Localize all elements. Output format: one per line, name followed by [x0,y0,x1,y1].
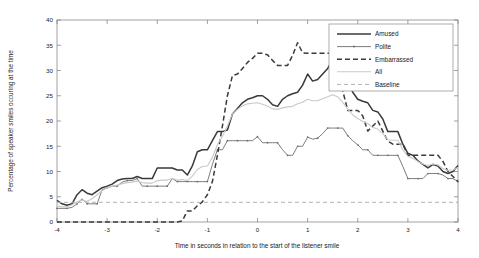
legend-label-polite: Polite [375,43,391,50]
series-marker-polite [407,178,409,180]
x-tick-label: 0 [256,226,260,233]
series-marker-polite [317,137,319,139]
y-tick-label: 5 [50,193,54,200]
series-marker-polite [56,208,58,210]
y-tick-label: 25 [46,92,53,99]
x-tick-label: -4 [54,226,60,233]
series-marker-polite [146,185,148,187]
x-tick-label: -1 [205,226,211,233]
series-marker-polite [96,203,98,205]
series-marker-polite [377,154,379,156]
series-marker-polite [307,136,309,138]
legend-marker-polite [353,46,355,48]
series-marker-polite [176,181,178,183]
series-marker-polite [247,140,249,142]
y-tick-label: 35 [46,42,53,49]
series-marker-polite [207,181,209,183]
series-marker-polite [297,145,299,147]
series-marker-polite [136,178,138,180]
chart-legend: AmusedPoliteEmbarrassedAllBaseline [329,24,453,91]
series-marker-polite [237,140,239,142]
series-marker-polite [66,208,68,210]
x-tick-label: -3 [104,226,110,233]
series-marker-polite [267,142,269,144]
y-axis-label: Percentage of speaker smiles occuring at… [7,50,15,192]
legend-label-baseline: Baseline [375,81,400,88]
legend-label-embarrassed: Embarrassed [375,56,413,63]
x-tick-label: 1 [306,226,310,233]
series-marker-polite [417,178,419,180]
y-tick-label: 20 [46,117,53,124]
series-marker-polite [86,203,88,205]
chart-svg: -4-3-2-101234 0510152025303540 Time in s… [0,0,479,258]
series-marker-polite [337,127,339,129]
series-marker-polite [197,181,199,183]
series-marker-polite [257,136,259,138]
series-marker-polite [427,173,429,175]
series-marker-polite [277,142,279,144]
y-tick-label: 40 [46,16,53,23]
series-marker-polite [447,178,449,180]
series-marker-polite [347,135,349,137]
series-marker-polite [126,180,128,182]
y-tick-label: 10 [46,168,53,175]
y-tick-label: 0 [50,218,54,225]
x-tick-label: 4 [456,226,460,233]
figure-container: -4-3-2-101234 0510152025303540 Time in s… [0,0,479,258]
series-marker-polite [156,185,158,187]
x-axis-label: Time in seconds in relation to the start… [175,242,340,249]
y-tick-label: 30 [46,67,53,74]
x-tick-label: 3 [406,226,410,233]
legend-label-all: All [375,68,382,75]
series-marker-polite [387,154,389,156]
series-marker-polite [227,140,229,142]
series-marker-polite [166,185,168,187]
series-marker-polite [76,203,78,205]
series-marker-polite [437,173,439,175]
series-marker-polite [357,144,359,146]
legend-label-amused: Amused [375,30,399,37]
x-tick-label: 2 [356,226,360,233]
x-tick-label: -2 [154,226,160,233]
series-marker-polite [367,149,369,151]
series-marker-polite [287,154,289,156]
series-marker-polite [327,127,329,129]
y-tick-label: 15 [46,143,53,150]
series-marker-polite [397,154,399,156]
